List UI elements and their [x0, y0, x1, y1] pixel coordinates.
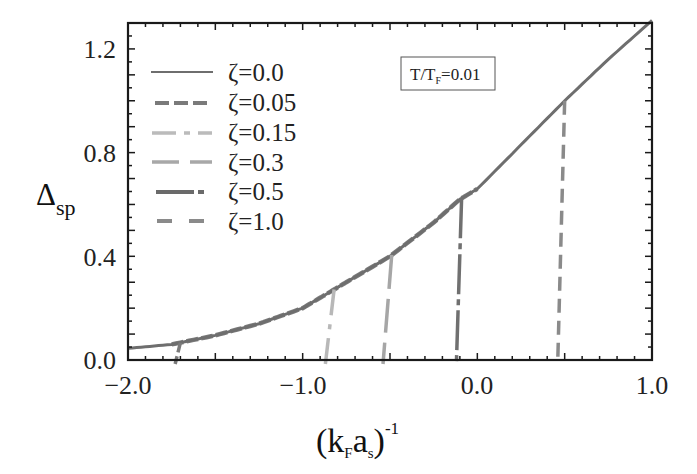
x-tick-label: 1.0 — [636, 371, 669, 400]
y-tick-label: 0.4 — [84, 243, 117, 272]
y-axis-title: Δsp — [36, 177, 76, 220]
x-tick-label: −2.0 — [104, 371, 151, 400]
temperature-annotation: T/TF=0.01 — [401, 57, 495, 90]
legend-label: ζ=0.05 — [228, 89, 296, 116]
legend-item: ζ=0.05 — [155, 89, 296, 116]
legend-label: ζ=1.0 — [228, 208, 284, 235]
drop-line-ζ=0.3 — [383, 255, 392, 364]
legend-label: ζ=0.5 — [228, 178, 284, 205]
legend-label: ζ=0.15 — [228, 119, 296, 146]
drop-line-ζ=1.0 — [558, 101, 565, 364]
y-tick-label: 0.8 — [84, 139, 117, 168]
legend-label: ζ=0.0 — [228, 59, 284, 86]
x-tick-label: −1.0 — [279, 371, 326, 400]
x-axis-title: (kFas)-1 — [316, 419, 399, 461]
x-tick-label: 0.0 — [461, 371, 494, 400]
axis-ticks — [128, 23, 652, 360]
chart-canvas: 1.2 0.8 0.4 0.0 −2.0 −1.0 0.0 1.0 Δsp (k… — [0, 0, 697, 474]
annotation-text: T/TF=0.01 — [410, 65, 480, 86]
drop-line-ζ=0.5 — [456, 198, 461, 364]
legend: ζ=0.0 ζ=0.05 ζ=0.15 ζ=0.3 ζ=0.5 ζ=1.0 — [151, 59, 296, 235]
y-tick-label: 1.2 — [84, 35, 117, 64]
curve-zeta-0.05 — [172, 189, 478, 345]
curve-zeta-0.0 — [128, 20, 652, 348]
legend-item: ζ=0.3 — [152, 149, 284, 176]
axes-frame — [128, 23, 652, 360]
legend-item: ζ=0.5 — [156, 178, 284, 205]
legend-item: ζ=0.0 — [151, 59, 284, 86]
legend-item: ζ=1.0 — [157, 208, 284, 235]
legend-label: ζ=0.3 — [228, 149, 284, 176]
legend-item: ζ=0.15 — [152, 119, 296, 146]
drop-line-ζ=0.15 — [325, 289, 334, 364]
